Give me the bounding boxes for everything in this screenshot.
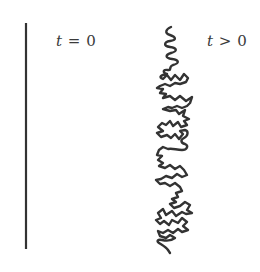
- crumpled-chain-path: [156, 27, 192, 253]
- label-operator: >: [214, 32, 238, 50]
- label-operator: =: [63, 32, 87, 50]
- label-t-equals-zero: t = 0: [56, 34, 96, 49]
- label-value: 0: [237, 32, 247, 50]
- label-t-greater-zero: t > 0: [207, 34, 247, 49]
- label-value: 0: [86, 32, 96, 50]
- polymer-chain-diagram: t = 0 t > 0: [0, 0, 260, 272]
